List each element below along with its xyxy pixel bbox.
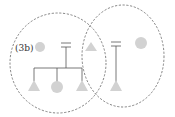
child-circle-icon xyxy=(51,81,63,93)
child-triangle-icon xyxy=(76,80,88,91)
right-union-marker xyxy=(111,42,121,82)
parent-circle-icon xyxy=(35,42,45,52)
shared-triangle-icon xyxy=(85,42,97,51)
child-triangle-icon xyxy=(28,80,40,91)
right-child-triangle-icon xyxy=(110,80,122,91)
sibship-line xyxy=(34,68,82,82)
pedigree-diagram: (3b) xyxy=(0,0,175,117)
right-circle-icon xyxy=(135,37,147,49)
left-group-ellipse xyxy=(10,13,106,113)
left-union-marker xyxy=(61,43,71,68)
right-group-ellipse xyxy=(82,5,164,107)
diagram-label: (3b) xyxy=(15,43,34,53)
